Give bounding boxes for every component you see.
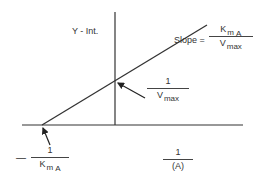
slope-prefix: Slope = <box>174 36 205 45</box>
x-int-numerator: 1 <box>47 146 52 157</box>
k-symbol: K <box>39 159 45 169</box>
x-intercept-label: — 1 KmA <box>16 146 69 169</box>
k-sub: m <box>47 163 54 172</box>
y-intercept-arrow-icon <box>118 83 145 98</box>
v-sub: max <box>227 42 242 51</box>
k-sub-a: A <box>55 164 60 173</box>
v-sub: max <box>164 94 179 103</box>
x-int-denominator: KmA <box>39 158 60 169</box>
x-label-denominator: (A) <box>172 160 184 171</box>
slope-fraction: KmA Vmax <box>209 33 253 48</box>
y-intercept-label: 1 Vmax <box>147 77 189 100</box>
v-symbol: V <box>220 38 226 48</box>
v-symbol: V <box>157 90 163 100</box>
x-int-fraction: 1 KmA <box>31 146 69 169</box>
slope-denominator: Vmax <box>220 37 242 48</box>
km-symbol: K <box>220 24 226 34</box>
slope-numerator: KmA <box>220 25 241 36</box>
km-sub-a: A <box>236 29 241 38</box>
y-int-denominator: Vmax <box>157 89 179 100</box>
x-intercept-arrow-icon <box>43 128 50 145</box>
x-label-numerator: 1 <box>175 148 180 159</box>
negative-sign: — <box>16 153 26 163</box>
y-axis-label: Y - Int. <box>72 27 98 36</box>
km-sub: m <box>227 28 234 37</box>
x-axis-label: 1 (A) <box>163 148 193 171</box>
y-int-numerator: 1 <box>165 77 170 88</box>
slope-label: Slope = KmA Vmax <box>174 33 253 48</box>
